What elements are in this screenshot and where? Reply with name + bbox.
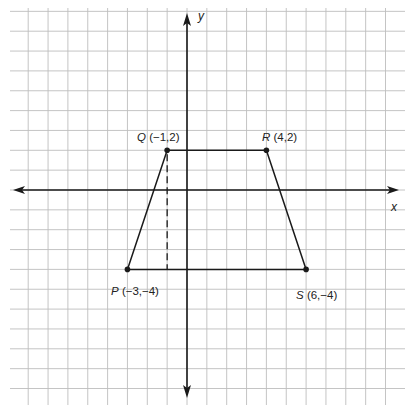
vertex-label-q: Q (−1,2)	[137, 131, 180, 143]
grid-lines	[10, 8, 405, 405]
vertex-point-q	[164, 148, 170, 154]
vertex-point-r	[264, 148, 270, 154]
vertex-label-r: R (4,2)	[262, 131, 297, 143]
y-axis-label: y	[198, 9, 204, 23]
x-axis-label: x	[391, 200, 397, 214]
vertex-label-s: S (6,−4)	[296, 289, 337, 301]
coordinate-plane	[0, 0, 410, 416]
vertex-point-s	[303, 267, 309, 273]
vertex-point-p	[125, 267, 131, 273]
vertex-label-p: P (−3,−4)	[111, 285, 159, 297]
